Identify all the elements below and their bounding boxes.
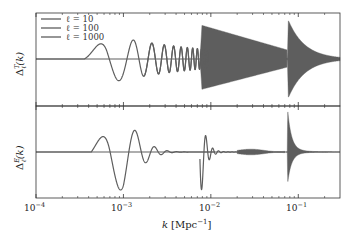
- x-tick-label-1e-1: 10−1: [286, 201, 307, 213]
- bottom-panel: [36, 106, 340, 198]
- x-tick-label-1e-4: 10−4: [24, 201, 45, 213]
- x-tick-label-1e-3: 10−3: [111, 201, 132, 213]
- figure: 10−4 10−3 10−2 10−1 k[Mpc−1] ΔTℓ(k) ΔEℓ(…: [0, 0, 351, 242]
- y-axis-label-polarization: ΔEℓ(k): [13, 145, 28, 170]
- legend: ℓ = 10 ℓ = 100 ℓ = 1000: [41, 14, 104, 42]
- legend-label-l1000: ℓ = 1000: [66, 32, 104, 42]
- x-axis-label: k[Mpc−1]: [162, 218, 212, 230]
- y-axis-label-temperature: ΔTℓ(k): [13, 52, 28, 76]
- x-tick-label-1e-2: 10−2: [199, 201, 220, 213]
- x-tick-labels: 10−4 10−3 10−2 10−1: [24, 201, 307, 213]
- polarization-transfer-curves: [36, 112, 340, 190]
